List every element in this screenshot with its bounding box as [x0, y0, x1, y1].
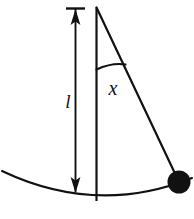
pendulum-diagram-canvas: l x	[0, 0, 194, 219]
pendulum-bob	[168, 171, 191, 194]
pendulum-figure: l x	[0, 0, 194, 219]
angle-marker-arc	[97, 64, 126, 69]
displacement-label: x	[108, 77, 118, 99]
length-label: l	[65, 91, 70, 112]
